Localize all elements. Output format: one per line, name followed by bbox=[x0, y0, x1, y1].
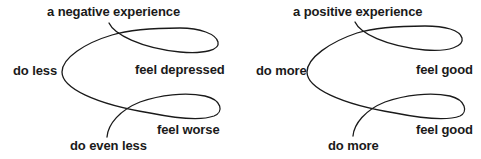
positive-right-bottom-label: feel good bbox=[416, 123, 473, 137]
negative-end-label: do even less bbox=[70, 139, 147, 153]
negative-left-label: do less bbox=[13, 64, 57, 78]
positive-end-label: do more bbox=[328, 139, 379, 153]
positive-right-top-label: feel good bbox=[416, 63, 473, 77]
spiral-curves bbox=[0, 0, 481, 159]
positive-start-label: a positive experience bbox=[293, 5, 422, 19]
positive-left-label: do more bbox=[256, 64, 307, 78]
diagram-canvas: a negative experience do less feel depre… bbox=[0, 0, 481, 159]
negative-right-bottom-label: feel worse bbox=[157, 123, 220, 137]
negative-spiral-curve bbox=[62, 23, 220, 137]
positive-spiral-curve bbox=[307, 22, 465, 136]
negative-start-label: a negative experience bbox=[47, 5, 180, 19]
negative-right-top-label: feel depressed bbox=[135, 63, 225, 77]
